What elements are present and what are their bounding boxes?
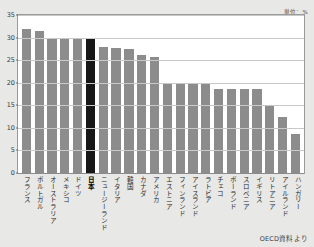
y-axis-tick-label: 35: [7, 12, 15, 19]
x-axis-label-slot: ラトビア: [200, 174, 213, 246]
x-axis-label-slot: チェコ: [213, 174, 226, 246]
bar: [35, 31, 44, 173]
x-axis-label-slot: ドイツ: [71, 174, 84, 246]
x-axis-tick-label: エストニア: [164, 176, 171, 246]
y-axis-tick-label: 20: [7, 79, 15, 86]
bar: [99, 47, 108, 173]
x-axis-tick-label: 韓国: [125, 176, 132, 246]
y-axis-tick-label: 25: [7, 57, 15, 64]
bar: [150, 57, 159, 173]
x-axis-tick-label: アメリカ: [151, 176, 158, 246]
y-axis-tick-label: 10: [7, 125, 15, 132]
source-label: OECD資料より: [260, 233, 308, 243]
plot-area: 05101520253035: [18, 15, 304, 173]
bar-slot: [46, 15, 59, 173]
x-axis-label-slot: フィンランド: [174, 174, 187, 246]
bar-slot: [187, 15, 200, 173]
x-axis-tick-label: ドイツ: [74, 176, 81, 246]
bar-slot: [263, 15, 276, 173]
x-axis-tick-label: フランス: [22, 176, 29, 246]
gridline: [18, 15, 304, 16]
bar-slot: [276, 15, 289, 173]
x-axis-label-slot: アイスランド: [187, 174, 200, 246]
y-axis-tick-mark: [16, 150, 18, 151]
x-axis-tick-label: ニュージーランド: [100, 176, 107, 246]
x-axis-tick-label: ラトビア: [203, 176, 210, 246]
gridline: [18, 83, 304, 84]
y-axis-tick-label: 5: [11, 147, 15, 154]
x-axis-tick-label: オーストラリア: [48, 176, 55, 246]
x-axis-label-slot: ポーランド: [226, 174, 239, 246]
bar: [227, 89, 236, 173]
bar-slot: [161, 15, 174, 173]
bar-slot: [58, 15, 71, 173]
plot-frame: 05101520253035: [17, 14, 305, 174]
bar: [124, 49, 133, 173]
x-axis-tick-label: ポルトガル: [35, 176, 42, 246]
x-axis-label-slot: ポルトガル: [32, 174, 45, 246]
x-axis-label-slot: カナダ: [135, 174, 148, 246]
bar: [265, 106, 274, 173]
x-axis-label-slot: スロベニア: [238, 174, 251, 246]
y-axis-tick-mark: [16, 60, 18, 61]
y-axis-tick-mark: [16, 37, 18, 38]
x-axis-label-slot: アメリカ: [148, 174, 161, 246]
x-axis-label-slot: 日本: [84, 174, 97, 246]
x-axis-tick-label: メキシコ: [61, 176, 68, 246]
gridline: [18, 150, 304, 151]
x-axis-tick-label: ポーランド: [229, 176, 236, 246]
y-axis-tick-mark: [16, 15, 18, 16]
x-axis-label-slot: オーストラリア: [45, 174, 58, 246]
x-axis-tick-label: イタリア: [112, 176, 119, 246]
y-axis-tick-label: 0: [11, 170, 15, 177]
chart-page: 単位：% 05101520253035 フランスポルトガルオーストラリアメキシコ…: [0, 0, 314, 247]
bar: [214, 89, 223, 173]
x-axis-label-slot: 韓国: [122, 174, 135, 246]
x-axis-tick-label: アイスランド: [190, 176, 197, 246]
bars-container: [18, 15, 304, 173]
bar-slot: [289, 15, 302, 173]
bar-slot: [97, 15, 110, 173]
x-axis-label-slot: イタリア: [109, 174, 122, 246]
bar-slot: [33, 15, 46, 173]
bar-slot: [110, 15, 123, 173]
bar-slot: [199, 15, 212, 173]
bar-slot: [174, 15, 187, 173]
bar-slot: [123, 15, 136, 173]
bar-slot: [238, 15, 251, 173]
x-axis-tick-label: 日本: [87, 176, 94, 246]
bar-slot: [20, 15, 33, 173]
bar-slot: [84, 15, 97, 173]
bar: [240, 89, 249, 173]
bar-slot: [135, 15, 148, 173]
y-axis-tick-mark: [16, 105, 18, 106]
y-axis-tick-label: 15: [7, 102, 15, 109]
bar-slot: [71, 15, 84, 173]
gridline: [18, 105, 304, 106]
x-axis-label-slot: ニュージーランド: [96, 174, 109, 246]
y-axis-tick-mark: [16, 82, 18, 83]
x-axis-tick-label: カナダ: [138, 176, 145, 246]
y-axis-tick-mark: [16, 127, 18, 128]
x-axis-label-slot: エストニア: [161, 174, 174, 246]
x-axis-tick-label: フィンランド: [177, 176, 184, 246]
bar: [278, 117, 287, 173]
bar: [291, 134, 300, 173]
x-axis-tick-label: スロベニア: [242, 176, 249, 246]
gridline: [18, 60, 304, 61]
x-axis-label-slot: メキシコ: [58, 174, 71, 246]
bar: [111, 48, 120, 173]
bar: [252, 89, 261, 173]
bar: [137, 55, 146, 173]
bar-slot: [225, 15, 238, 173]
x-axis-tick-label: チェコ: [216, 176, 223, 246]
x-axis-label-slot: フランス: [19, 174, 32, 246]
gridline: [18, 38, 304, 39]
y-axis-tick-label: 30: [7, 34, 15, 41]
gridline: [18, 128, 304, 129]
bar-slot: [148, 15, 161, 173]
bar-slot: [212, 15, 225, 173]
bar-slot: [251, 15, 264, 173]
